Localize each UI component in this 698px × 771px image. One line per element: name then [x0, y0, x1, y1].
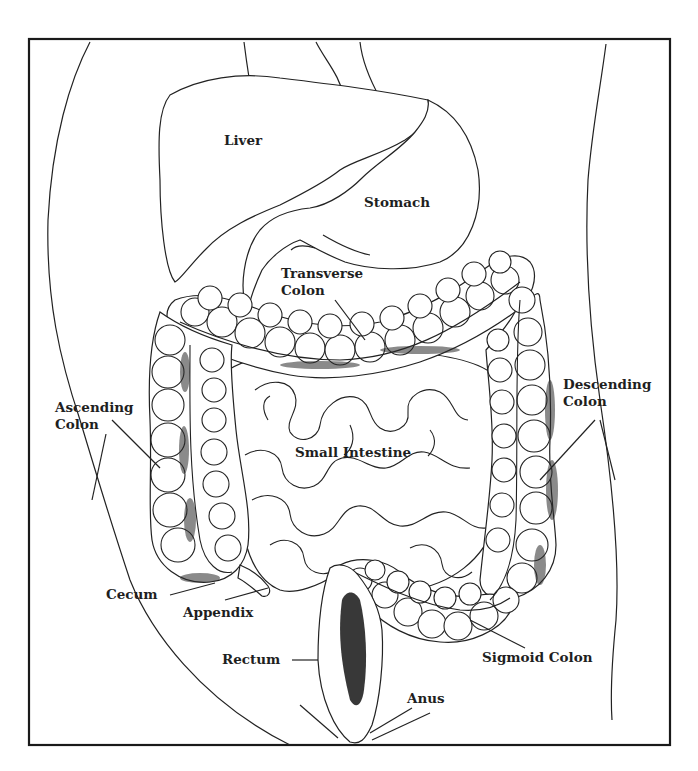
- label-descending-colon-line1: Descending: [563, 376, 652, 392]
- label-small-intestine: Small Intestine: [295, 444, 411, 460]
- digestive-system-diagram: Liver Stomach Transverse Colon Ascending…: [0, 0, 698, 771]
- label-ascending-colon-line1: Ascending: [54, 399, 134, 415]
- label-transverse-colon-line1: Transverse: [281, 265, 363, 281]
- label-sigmoid-colon: Sigmoid Colon: [482, 649, 593, 665]
- label-descending-colon-line2: Colon: [563, 393, 607, 409]
- label-liver: Liver: [224, 132, 263, 148]
- label-anus: Anus: [406, 690, 445, 706]
- label-stomach: Stomach: [364, 194, 430, 210]
- label-transverse-colon-line2: Colon: [281, 282, 325, 298]
- label-cecum: Cecum: [106, 586, 158, 602]
- label-ascending-colon-line2: Colon: [55, 416, 99, 432]
- label-appendix: Appendix: [182, 604, 254, 620]
- small-intestine: [225, 349, 500, 591]
- label-rectum: Rectum: [222, 651, 280, 667]
